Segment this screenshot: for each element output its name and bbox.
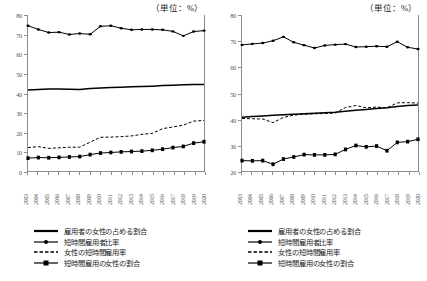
data-point-marker xyxy=(344,43,347,45)
legend-swatch-icon xyxy=(33,247,59,257)
x-tick-label: 2019 xyxy=(191,194,197,205)
plot-frame-right xyxy=(241,15,419,172)
x-tick-mark xyxy=(48,172,49,175)
data-point-marker xyxy=(416,48,419,50)
data-point-marker xyxy=(47,31,50,33)
series-line xyxy=(28,142,204,158)
unit-note-left: （単位：%） xyxy=(151,1,203,13)
legend-label: 短時間雇用の女性の割合 xyxy=(64,258,140,268)
data-point-marker xyxy=(37,28,40,30)
data-point-marker xyxy=(89,33,92,35)
x-tick-label: 2007 xyxy=(279,194,285,205)
x-tick-label: 2018 xyxy=(394,194,400,205)
data-point-marker xyxy=(375,144,378,148)
y-tick-label: 30 xyxy=(16,110,22,117)
x-tick-mark xyxy=(419,172,420,175)
x-axis-right: 2003200420052006200720082009201020112012… xyxy=(241,172,419,207)
data-point-marker xyxy=(323,153,326,157)
data-point-marker xyxy=(26,25,29,27)
y-tick-label: 0 xyxy=(19,169,22,176)
data-point-marker xyxy=(375,45,378,47)
x-tick-label: 2004 xyxy=(33,194,39,205)
data-point-marker xyxy=(130,150,133,154)
x-tick-label: 2016 xyxy=(373,194,379,205)
x-tick-mark xyxy=(293,172,294,175)
data-point-marker xyxy=(251,159,254,163)
data-point-marker xyxy=(406,46,409,48)
x-tick-mark xyxy=(272,172,273,175)
legend-item: 女性の短時間雇用率 xyxy=(33,247,208,258)
legend-item: 短時間雇用者比率 xyxy=(33,237,208,248)
data-point-marker xyxy=(396,41,399,43)
data-point-marker xyxy=(313,47,316,49)
legend-item: 雇用者の女性の占める割合 xyxy=(33,226,208,237)
x-tick-label: 2013 xyxy=(128,194,134,205)
x-tick-mark xyxy=(90,172,91,175)
x-tick-mark xyxy=(195,172,196,175)
x-tick-mark xyxy=(251,172,252,175)
x-tick-mark xyxy=(184,172,185,175)
x-tick-label: 2016 xyxy=(159,194,165,205)
data-point-marker xyxy=(385,149,388,153)
legend-item: 短時間雇用の女性の割合 xyxy=(247,258,422,269)
data-point-marker xyxy=(303,44,306,46)
data-point-marker xyxy=(130,29,133,31)
x-tick-mark xyxy=(398,172,399,175)
x-tick-mark xyxy=(142,172,143,175)
data-point-marker xyxy=(140,28,143,30)
y-tick-label: 40 xyxy=(230,116,236,123)
data-point-marker xyxy=(240,44,243,46)
x-tick-label: 2007 xyxy=(65,194,71,205)
series-layer-left xyxy=(28,15,204,171)
data-point-marker xyxy=(323,44,326,46)
data-point-marker xyxy=(109,151,112,155)
x-tick-label: 2015 xyxy=(363,194,369,205)
data-point-marker xyxy=(109,25,112,27)
data-point-marker xyxy=(78,155,81,159)
x-tick-mark xyxy=(356,172,357,175)
data-point-marker xyxy=(99,25,102,27)
x-tick-label: 2005 xyxy=(258,194,264,205)
x-tick-mark xyxy=(314,172,315,175)
data-point-marker xyxy=(334,43,337,45)
data-point-marker xyxy=(120,27,123,29)
x-tick-label: 2010 xyxy=(310,194,316,205)
x-tick-mark xyxy=(163,172,164,175)
x-tick-label: 2012 xyxy=(117,194,123,205)
data-point-marker xyxy=(161,29,164,31)
y-tick-label: 70 xyxy=(16,31,22,38)
legend-item: 女性の短時間雇用率 xyxy=(247,247,422,258)
x-tick-label: 2017 xyxy=(384,194,390,205)
data-point-marker xyxy=(192,141,195,145)
data-point-marker xyxy=(334,152,337,156)
legend-swatch-icon xyxy=(33,258,59,268)
legend-item: 短時間雇用の女性の割合 xyxy=(33,258,208,269)
x-tick-label: 2011 xyxy=(107,194,113,205)
data-point-marker xyxy=(261,159,264,163)
series-line xyxy=(28,84,204,90)
x-tick-label: 2006 xyxy=(268,194,274,205)
y-tick-label: 60 xyxy=(230,64,236,71)
x-tick-label: 2009 xyxy=(86,194,92,205)
x-tick-mark xyxy=(304,172,305,175)
x-tick-label: 2014 xyxy=(138,194,144,205)
x-tick-label: 2008 xyxy=(75,194,81,205)
x-tick-label: 2012 xyxy=(331,194,337,205)
legend-swatch-icon xyxy=(33,237,59,247)
series-line xyxy=(28,26,204,36)
y-tick-label: 80 xyxy=(16,12,22,19)
data-point-marker xyxy=(78,32,81,34)
x-tick-mark xyxy=(58,172,59,175)
legend-label: 雇用者の女性の占める割合 xyxy=(64,226,147,236)
data-point-marker xyxy=(202,140,205,144)
x-tick-mark xyxy=(346,172,347,175)
legend-swatch-icon xyxy=(247,258,273,268)
series-line xyxy=(28,120,204,148)
data-point-marker xyxy=(354,46,357,48)
x-tick-label: 2017 xyxy=(170,194,176,205)
legend-swatch-icon xyxy=(247,226,273,236)
legend-left: 雇用者の女性の占める割合短時間雇用者比率女性の短時間雇用率短時間雇用の女性の割合 xyxy=(33,226,208,268)
y-tick-label: 80 xyxy=(230,12,236,19)
data-point-marker xyxy=(120,150,123,154)
data-point-marker xyxy=(396,141,399,145)
